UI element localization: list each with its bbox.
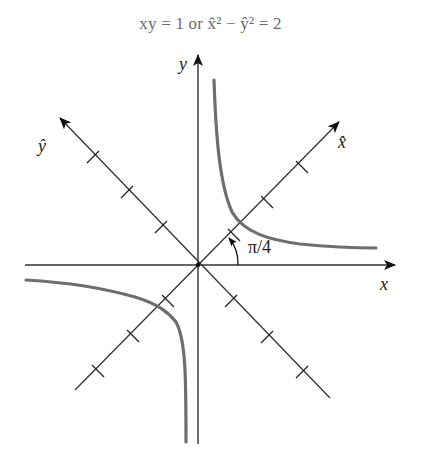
x-hat-axis (75, 122, 339, 390)
y-axis-label: y (177, 54, 187, 74)
x-hat-ticks (92, 161, 308, 377)
x-hat-axis-label: x̂ (337, 132, 346, 152)
angle-label: π/4 (248, 237, 271, 257)
x-axis-label: x (379, 274, 388, 294)
hyperbola-branch-lower-left (26, 280, 186, 442)
origin-point (196, 263, 200, 267)
y-hat-axis-label: ŷ (36, 136, 46, 156)
angle-arc (229, 238, 238, 265)
hyperbola-branch-upper-right (214, 80, 376, 248)
hyperbola-diagram: x y x̂ ŷ π/4 (0, 0, 421, 471)
y-hat-axis (60, 118, 330, 398)
